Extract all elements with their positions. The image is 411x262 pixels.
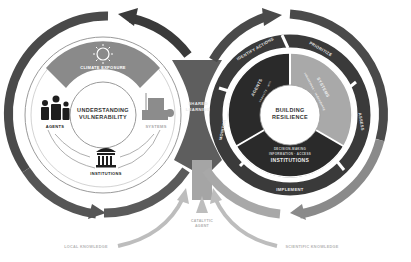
institutions-right-label: INSTITUTIONS [271,157,310,163]
adaptation-diagram: CLIMATE EXPOSURE UNDERSTANDING VULNERABI… [0,0,411,262]
institutions-sub-1: DECISION-MAKING [274,147,307,151]
shared-learning-label-2: LEARNING [186,107,210,112]
scientific-knowledge-label: SCIENTIFIC KNOWLEDGE [285,245,338,249]
building-title-2: RESILIENCE [272,114,308,120]
understanding-title-1: UNDERSTANDING [77,107,129,113]
institutions-sub-2: INFORMATION · ACCESS [269,152,311,156]
agents-label: AGENTS [46,124,64,129]
catalytic-agent-label-1: CATALYTIC [191,219,213,223]
local-knowledge-label: LOCAL KNOWLEDGE [64,245,108,249]
catalytic-agent-label-2: AGENT [195,224,210,228]
shared-learning-label-1: SHARED [188,101,207,106]
building-title-1: BUILDING [276,107,305,113]
systems-label: SYSTEMS [145,124,166,129]
understanding-title-2: VULNERABILITY [79,114,127,120]
climate-exposure-label: CLIMATE EXPOSURE [80,65,126,70]
institutions-label: INSTITUTIONS [90,171,121,176]
step-implement: IMPLEMENT [276,187,304,192]
